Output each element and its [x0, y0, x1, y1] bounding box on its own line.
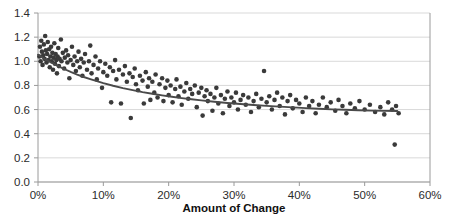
- scatter-point: [100, 86, 105, 91]
- y-tick-label: 1.2: [14, 31, 30, 43]
- scatter-point: [59, 37, 64, 42]
- y-tick-label: 1.4: [14, 7, 31, 19]
- x-tick-label: 30%: [222, 189, 245, 201]
- scatter-point: [109, 100, 114, 105]
- scatter-point: [173, 87, 178, 92]
- scatter-point: [113, 58, 118, 63]
- scatter-point: [336, 98, 341, 103]
- scatter-point: [310, 99, 315, 104]
- y-axis-tick-labels: 0.00.20.40.60.81.01.21.4: [14, 7, 31, 188]
- x-tick-label: 60%: [418, 189, 441, 201]
- y-tick-label: 0.4: [14, 128, 31, 140]
- scatter-point: [68, 58, 73, 63]
- scatter-point: [165, 78, 170, 83]
- scatter-point: [111, 69, 116, 74]
- scatter-point: [67, 76, 72, 81]
- scatter-point: [150, 80, 155, 85]
- scatter-point: [270, 107, 275, 112]
- scatter-point: [130, 75, 135, 80]
- trend-line: [38, 55, 397, 111]
- scatter-point: [138, 73, 143, 78]
- scatter-point: [52, 41, 57, 46]
- scatter-point: [148, 98, 153, 103]
- scatter-point: [46, 40, 51, 45]
- x-tick-label: 20%: [157, 189, 180, 201]
- x-tick-label: 10%: [92, 189, 115, 201]
- scatter-chart: 0.00.20.40.60.81.01.21.4 0%10%20%30%40%5…: [0, 0, 452, 221]
- scatter-point: [87, 59, 92, 64]
- scatter-point: [178, 84, 183, 89]
- scatter-point: [134, 82, 139, 87]
- scatter-point: [317, 102, 322, 107]
- scatter-point: [81, 60, 86, 65]
- scatter-point: [142, 101, 147, 106]
- scatter-point: [190, 92, 195, 97]
- x-axis-tick-labels: 0%10%20%30%40%50%60%: [30, 189, 442, 201]
- scatter-point: [184, 81, 189, 86]
- scatter-point: [262, 69, 267, 74]
- scatter-point: [147, 76, 152, 81]
- scatter-point: [236, 107, 241, 112]
- scatter-point: [89, 71, 94, 76]
- y-tick-label: 0.8: [14, 79, 30, 91]
- scatter-point: [208, 92, 213, 97]
- scatter-point: [174, 77, 179, 82]
- scatter-point: [88, 43, 93, 48]
- scatter-point: [75, 59, 80, 64]
- scatter-point: [121, 72, 126, 77]
- scatter-point: [275, 90, 280, 95]
- scatter-point: [114, 77, 119, 82]
- scatter-point: [144, 70, 149, 75]
- y-tick-label: 0.2: [14, 152, 30, 164]
- scatter-point: [193, 83, 198, 88]
- scatter-point: [348, 101, 353, 106]
- scatter-point: [71, 63, 76, 68]
- scatter-point: [49, 45, 54, 50]
- scatter-point: [119, 101, 124, 106]
- scatter-point: [234, 90, 239, 95]
- x-tick-label: 40%: [288, 189, 311, 201]
- scatter-point: [103, 61, 108, 66]
- scatter-point: [294, 98, 299, 103]
- scatter-point: [267, 94, 272, 99]
- scatter-point: [157, 82, 162, 87]
- scatter-point: [85, 67, 90, 72]
- scatter-point: [204, 88, 209, 93]
- scatter-point: [200, 113, 205, 118]
- y-tick-label: 0.6: [14, 104, 30, 116]
- scatter-point: [101, 70, 106, 75]
- scatter-point: [368, 102, 373, 107]
- scatter-point: [212, 95, 217, 100]
- scatter-point: [117, 67, 122, 72]
- scatter-point: [227, 104, 232, 109]
- scatter-point: [160, 76, 165, 81]
- scatter-point: [221, 111, 226, 116]
- scatter-point: [321, 95, 326, 100]
- y-tick-label: 1.0: [14, 55, 30, 67]
- scatter-points: [37, 34, 401, 147]
- scatter-point: [229, 95, 234, 100]
- scatter-point: [340, 104, 345, 109]
- scatter-point: [128, 116, 133, 121]
- scatter-point: [108, 65, 113, 70]
- scatter-point: [357, 99, 362, 104]
- scatter-point: [214, 86, 219, 91]
- scatter-point: [297, 101, 302, 106]
- scatter-point: [105, 73, 110, 78]
- scatter-point: [70, 45, 75, 50]
- scatter-point: [219, 93, 224, 98]
- scatter-point: [392, 142, 397, 147]
- scatter-point: [300, 110, 305, 115]
- scatter-point: [223, 96, 228, 101]
- scatter-point: [132, 66, 137, 71]
- scatter-point: [155, 95, 160, 100]
- scatter-point: [378, 105, 383, 110]
- scatter-point: [196, 90, 201, 95]
- scatter-point: [238, 98, 243, 103]
- scatter-point: [140, 78, 145, 83]
- scatter-point: [285, 99, 290, 104]
- scatter-point: [283, 112, 288, 117]
- scatter-point: [182, 89, 187, 94]
- scatter-point: [188, 87, 193, 92]
- scatter-point: [42, 42, 47, 47]
